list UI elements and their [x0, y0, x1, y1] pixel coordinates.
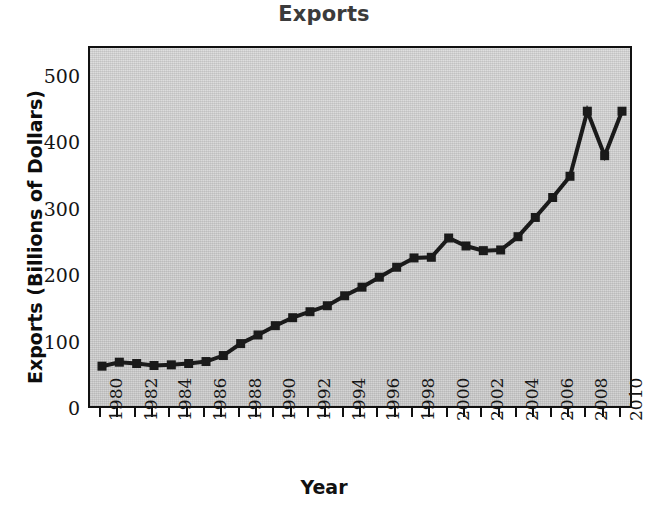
data-point-marker	[115, 358, 124, 367]
x-axis-tick-mark	[480, 408, 482, 417]
data-point-marker	[150, 361, 159, 370]
x-axis-tick-label: 1996	[383, 378, 403, 421]
data-point-marker	[358, 283, 367, 292]
data-point-marker	[375, 273, 384, 282]
x-axis-tick-mark	[550, 408, 552, 417]
data-point-marker	[167, 360, 176, 369]
x-axis-tick-label: 2006	[557, 378, 577, 421]
data-point-marker	[202, 357, 211, 366]
data-point-marker	[236, 339, 245, 348]
y-axis-tick-label: 100	[6, 331, 80, 353]
data-point-marker	[531, 213, 540, 222]
data-point-marker	[271, 321, 280, 330]
x-axis-tick-mark	[99, 408, 101, 417]
x-axis-tick-mark	[446, 408, 448, 417]
data-point-marker	[184, 359, 193, 368]
data-point-marker	[462, 241, 471, 250]
x-axis-tick-label: 1982	[141, 378, 161, 421]
data-point-marker	[392, 263, 401, 272]
data-point-marker	[288, 313, 297, 322]
x-axis-tick-mark	[515, 408, 517, 417]
data-point-marker	[548, 193, 557, 202]
x-axis-tick-label: 1998	[418, 378, 438, 421]
y-axis-tick-label: 0	[6, 397, 80, 419]
x-axis-tick-label: 2000	[453, 378, 473, 421]
x-axis-tick-label: 1992	[314, 378, 334, 421]
x-axis-tick-mark	[619, 408, 621, 417]
series-polyline	[102, 111, 622, 366]
x-axis-tick-mark	[272, 408, 274, 417]
x-axis-tick-label: 1980	[106, 378, 126, 421]
series-markers	[98, 107, 627, 371]
x-axis-tick-mark	[238, 408, 240, 417]
x-axis-tick-mark	[411, 408, 413, 417]
data-point-marker	[219, 351, 228, 360]
y-axis-tick-label: 400	[6, 131, 80, 153]
x-axis-tick-label: 1984	[175, 378, 195, 421]
x-axis-tick-label: 2010	[626, 378, 646, 421]
data-point-marker	[444, 234, 453, 243]
data-point-marker	[583, 107, 592, 116]
x-axis-tick-label: 1994	[349, 378, 369, 421]
x-axis-tick-label: 1986	[210, 378, 230, 421]
data-point-marker	[618, 107, 627, 116]
x-axis-tick-mark	[168, 408, 170, 417]
exports-line-series	[90, 48, 632, 408]
data-point-marker	[306, 307, 315, 316]
x-axis-title: Year	[0, 476, 648, 498]
data-point-marker	[427, 253, 436, 262]
data-point-marker	[323, 301, 332, 310]
data-point-marker	[132, 359, 141, 368]
data-point-marker	[479, 246, 488, 255]
y-axis-tick-label: 200	[6, 264, 80, 286]
x-axis-tick-label: 2002	[487, 378, 507, 421]
x-axis-tick-label: 2004	[522, 378, 542, 421]
chart-figure: Exports Exports (Billions of Dollars) 01…	[0, 0, 648, 512]
x-axis-tick-label: 1990	[279, 378, 299, 421]
x-axis-tick-mark	[307, 408, 309, 417]
x-axis-tick-mark	[134, 408, 136, 417]
data-point-marker	[410, 253, 419, 262]
x-axis-tick-label: 2008	[591, 378, 611, 421]
y-axis-tick-label: 300	[6, 198, 80, 220]
x-axis-tick-mark	[203, 408, 205, 417]
plot-area	[88, 46, 632, 408]
y-axis-tick-labels: 0100200300400500	[0, 0, 80, 512]
x-axis-tick-mark	[342, 408, 344, 417]
data-point-marker	[254, 330, 263, 339]
y-axis-tick-label: 500	[6, 65, 80, 87]
data-point-marker	[340, 291, 349, 300]
chart-title: Exports	[0, 2, 648, 26]
x-axis-tick-mark	[376, 408, 378, 417]
x-axis-tick-label: 1988	[245, 378, 265, 421]
data-point-marker	[600, 151, 609, 160]
data-point-marker	[514, 232, 523, 241]
x-axis-tick-mark	[584, 408, 586, 417]
data-point-marker	[98, 362, 107, 371]
data-point-marker	[566, 172, 575, 181]
data-point-marker	[496, 245, 505, 254]
